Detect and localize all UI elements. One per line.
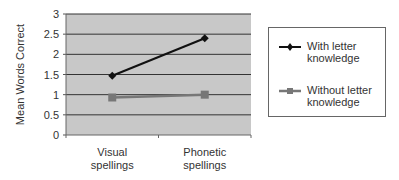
x-tick-label: Phonetic xyxy=(183,146,226,158)
x-tick-label: spellings xyxy=(183,159,226,171)
data-point xyxy=(201,91,209,99)
legend-label-line1: With letter xyxy=(307,40,387,52)
legend-label: With letter knowledge xyxy=(307,40,387,64)
x-tick-label: Visual xyxy=(97,146,127,158)
y-tick-label: 0 xyxy=(53,129,59,141)
legend-label-line2: knowledge xyxy=(307,52,387,64)
legend-label: Without letter knowledge xyxy=(307,84,387,108)
legend-label-line2: knowledge xyxy=(307,96,387,108)
y-tick-label: 2 xyxy=(53,48,59,60)
y-tick-label: 0.5 xyxy=(44,109,59,121)
y-tick-label: 1.5 xyxy=(44,69,59,81)
legend: With letter knowledge Without letter kno… xyxy=(268,27,386,117)
diamond-marker-icon xyxy=(279,40,301,54)
y-tick-label: 2.5 xyxy=(44,28,59,40)
legend-label-line1: Without letter xyxy=(307,84,387,96)
y-tick-label: 1 xyxy=(53,89,59,101)
y-axis-title: Mean Words Correct xyxy=(14,24,26,125)
legend-item-with-letter: With letter knowledge xyxy=(279,40,387,64)
x-tick-label: spellings xyxy=(91,159,134,171)
y-tick-label: 3 xyxy=(53,8,59,20)
data-point xyxy=(108,93,116,101)
legend-item-without-letter: Without letter knowledge xyxy=(279,84,387,108)
square-marker-icon xyxy=(279,84,301,98)
